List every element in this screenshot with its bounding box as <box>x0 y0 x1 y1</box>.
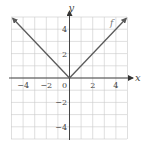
x-axis-label: x <box>135 72 141 83</box>
y-tick-label: 4 <box>62 25 67 34</box>
series-line-segment <box>70 18 127 78</box>
x-tick-label: −2 <box>40 81 52 90</box>
x-tick-label: 2 <box>90 81 95 90</box>
graph-of-f: −4−202442−2−4 f x y <box>0 0 142 141</box>
y-tick-label: −2 <box>55 98 67 107</box>
y-tick-label: −4 <box>55 123 67 132</box>
x-tick-label: 0 <box>62 81 67 90</box>
function-label: f <box>109 18 115 28</box>
y-axis-label: y <box>68 2 75 13</box>
x-tick-label: −4 <box>17 81 29 90</box>
y-tick-label: 2 <box>62 50 67 59</box>
x-tick-label: 4 <box>113 81 118 90</box>
